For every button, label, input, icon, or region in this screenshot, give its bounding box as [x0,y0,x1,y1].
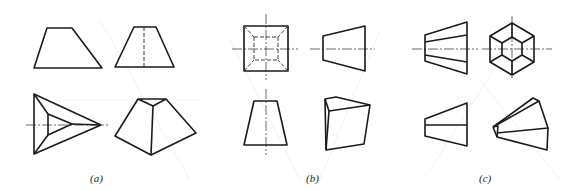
a-side-view [115,27,174,67]
panel-a [26,27,196,155]
c-front-view [425,22,467,74]
caption-b: (b) [306,172,319,184]
b-isometric-view [325,97,370,150]
caption-a: (a) [90,172,103,184]
technical-drawing [0,0,575,191]
b-side-view [323,26,365,71]
panel-b [232,14,375,155]
panel-c [412,16,552,150]
a-top-view-inner [48,114,72,135]
caption-c: (c) [479,172,491,184]
b-top-view [244,101,287,145]
c-isometric-view [493,98,548,150]
a-isometric-view [115,99,196,155]
a-front-view [34,28,102,68]
faint-background-lines [60,20,560,180]
